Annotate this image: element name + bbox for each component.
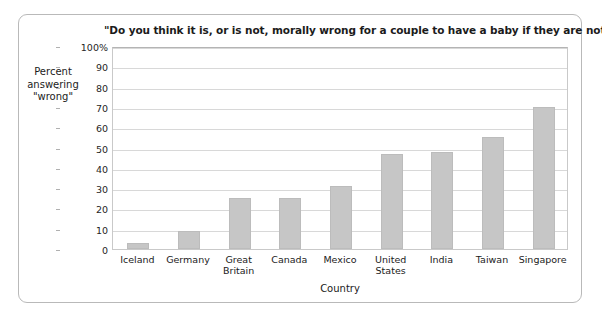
x-axis-tick-label: Canada [262,254,316,265]
x-axis-tick-label: Mexico [313,254,367,265]
y-axis-tick-labels: 0102030405060708090100% [60,47,108,250]
bar-slot [518,48,569,249]
y-axis-tick-label: 20 [96,204,108,215]
y-axis-tick-label: 90 [96,62,108,73]
x-axis-tick-labels: IcelandGermanyGreatBritainCanadaMexicoUn… [112,254,568,282]
y-axis-tick-mark [56,67,60,68]
y-axis-tick-mark [56,47,60,48]
bar-slot [316,48,367,249]
x-axis-tick-label: Germany [161,254,215,265]
y-axis-tick-mark [56,189,60,190]
bar[interactable] [482,137,504,249]
x-axis-tick-label-line: Great [212,254,266,265]
x-axis-tick-label-line: Taiwan [465,254,519,265]
chart-title: "Do you think it is, or is not, morally … [104,24,574,36]
y-axis-tick-label: 60 [96,123,108,134]
y-axis-tick-mark [56,230,60,231]
bar-slot [366,48,417,249]
x-axis-tick-label: Taiwan [465,254,519,265]
bar-slot [265,48,316,249]
y-axis-tick-mark [56,128,60,129]
x-axis-tick-label: GreatBritain [212,254,266,276]
x-axis-tick-label-line: Germany [161,254,215,265]
bar[interactable] [178,231,200,249]
x-axis-tick-label: Iceland [110,254,164,265]
bar[interactable] [279,198,301,249]
bar-slot [113,48,164,249]
x-axis-tick-label: UnitedStates [364,254,418,276]
bar-slot [468,48,519,249]
bar[interactable] [431,152,453,249]
chart-container: "Do you think it is, or is not, morally … [0,0,602,318]
y-axis-tick-label: 50 [96,143,108,154]
bar[interactable] [330,186,352,249]
bar-slot [417,48,468,249]
y-axis-tick-mark [56,88,60,89]
x-axis-tick-label: India [414,254,468,265]
y-axis-tick-label: 100% [81,42,108,53]
bar[interactable] [229,198,251,249]
y-axis-tick-mark [56,209,60,210]
x-axis-tick-label: Singapore [516,254,570,265]
bar[interactable] [533,107,555,249]
y-axis-tick-label: 80 [96,82,108,93]
y-axis-tick-mark [56,149,60,150]
x-axis-tick-label-line: United [364,254,418,265]
plot-area [112,47,568,250]
bar-series [113,48,567,249]
bar-slot [214,48,265,249]
y-axis-tick-label: 10 [96,224,108,235]
x-axis-tick-label-line: Canada [262,254,316,265]
x-axis-tick-label-line: States [364,265,418,276]
y-axis-tick-mark [56,169,60,170]
x-axis-tick-label-line: Iceland [110,254,164,265]
y-axis-tick-mark [56,108,60,109]
bar-slot [164,48,215,249]
y-axis-tick-label: 30 [96,184,108,195]
y-axis-tick-label: 70 [96,102,108,113]
bar[interactable] [381,154,403,249]
y-axis-tick-mark [56,250,60,251]
y-axis-tick-label: 40 [96,163,108,174]
x-axis-tick-label-line: Mexico [313,254,367,265]
x-axis-tick-label-line: Singapore [516,254,570,265]
bar[interactable] [127,243,149,249]
x-axis-title: Country [112,283,568,294]
x-axis-tick-label-line: India [414,254,468,265]
x-axis-tick-label-line: Britain [212,265,266,276]
y-axis-tick-label: 0 [102,245,108,256]
